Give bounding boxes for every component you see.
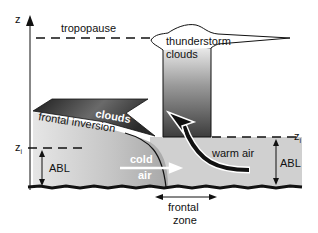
cold-air-label-line2: air	[138, 169, 152, 181]
zi-right-label: zi	[294, 130, 302, 144]
cold-air-label: cold	[130, 153, 153, 165]
abl-right-label: ABL	[280, 157, 301, 169]
zi-left-label: zi	[15, 141, 23, 155]
zi-left-sub: i	[21, 148, 23, 155]
frontal-zone-diagram: z tropopause thunderstorm clouds clouds …	[0, 0, 318, 233]
warm-air-label: warm air	[211, 147, 255, 159]
tropopause-label: tropopause	[61, 22, 116, 34]
frontal-zone-arrowhead-right-icon	[209, 194, 217, 200]
frontal-zone-label-line2: zone	[173, 214, 197, 226]
thunderstorm-label: thunderstorm	[166, 35, 231, 47]
abl-left-label: ABL	[49, 162, 70, 174]
z-axis-arrowhead-icon	[26, 15, 34, 26]
frontal-zone-arrowhead-left-icon	[155, 194, 163, 200]
thunderstorm-label-line2: clouds	[166, 48, 198, 60]
z-axis-label: z	[15, 13, 21, 25]
frontal-zone-label: frontal	[168, 201, 199, 213]
